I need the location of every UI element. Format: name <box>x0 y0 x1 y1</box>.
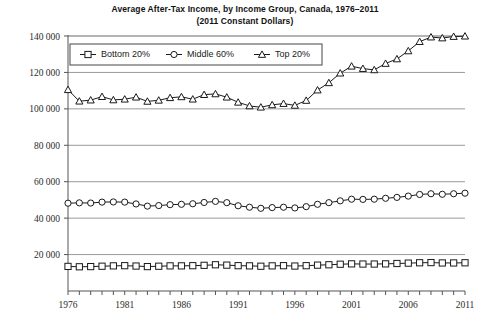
data-point-marker <box>99 199 105 205</box>
data-point-marker <box>427 34 434 40</box>
data-point-marker <box>246 204 252 210</box>
data-point-marker <box>144 263 150 269</box>
line-chart-svg: 20 00040 00060 00080 000100 000120 00014… <box>0 0 490 332</box>
data-point-marker <box>178 93 185 99</box>
data-point-marker <box>246 263 252 269</box>
data-point-marker <box>360 261 366 267</box>
y-axis-ticks-group <box>64 36 68 255</box>
y-axis-labels-group: 20 00040 00060 00080 000100 000120 00014… <box>29 32 60 261</box>
data-point-marker <box>133 201 139 207</box>
data-point-marker <box>405 260 411 266</box>
data-point-marker <box>235 99 242 105</box>
data-point-marker <box>88 200 94 206</box>
data-point-marker <box>212 198 218 204</box>
legend-marker-icon <box>171 51 177 57</box>
data-point-marker <box>122 263 128 269</box>
data-point-marker <box>258 205 264 211</box>
data-point-marker <box>269 204 275 210</box>
data-point-marker <box>190 201 196 207</box>
gridlines-group <box>68 36 465 255</box>
chart-legend: Bottom 20%Middle 60%Top 20% <box>70 44 322 65</box>
data-point-marker <box>280 100 287 106</box>
series-bottom-20 <box>65 259 468 269</box>
data-point-marker <box>178 263 184 269</box>
data-point-marker <box>439 260 445 266</box>
data-point-marker <box>383 261 389 267</box>
data-point-marker <box>383 195 389 201</box>
x-axis-labels-group: 19761981198619911996200120062011 <box>59 300 475 310</box>
data-point-marker <box>303 204 309 210</box>
data-point-marker <box>393 55 400 61</box>
data-point-marker <box>451 191 457 197</box>
x-axis-tick-label: 1976 <box>59 300 78 310</box>
data-point-marker <box>292 263 298 269</box>
data-point-marker <box>76 264 82 270</box>
data-point-marker <box>462 190 468 196</box>
data-point-marker <box>371 196 377 202</box>
data-point-marker <box>201 262 207 268</box>
data-point-marker <box>122 199 128 205</box>
y-axis-tick-label: 40 000 <box>34 214 60 224</box>
data-point-marker <box>110 263 116 269</box>
data-point-marker <box>416 38 423 44</box>
y-axis-tick-label: 60 000 <box>34 177 60 187</box>
legend-items-group: Bottom 20%Middle 60%Top 20% <box>80 49 310 59</box>
legend-marker-icon <box>85 51 91 57</box>
data-point-marker <box>65 200 71 206</box>
data-point-marker <box>326 262 332 268</box>
data-point-marker <box>235 263 241 269</box>
legend-label: Top 20% <box>275 49 310 59</box>
data-point-marker <box>292 205 298 211</box>
data-point-marker <box>190 263 196 269</box>
data-point-marker <box>156 202 162 208</box>
x-axis-tick-label: 1996 <box>285 300 304 310</box>
data-point-marker <box>65 263 71 269</box>
y-axis-tick-label: 140 000 <box>29 32 60 42</box>
data-point-marker <box>132 94 139 100</box>
data-point-marker <box>110 199 116 205</box>
data-point-marker <box>337 261 343 267</box>
legend-label: Bottom 20% <box>101 49 150 59</box>
y-axis-tick-label: 20 000 <box>34 250 60 260</box>
data-point-marker <box>201 199 207 205</box>
data-point-marker <box>280 263 286 269</box>
data-point-marker <box>394 260 400 266</box>
data-point-marker <box>212 90 219 96</box>
data-point-marker <box>212 262 218 268</box>
x-axis-tick-label: 1991 <box>229 300 248 310</box>
data-point-marker <box>156 263 162 269</box>
x-axis-ticks-group <box>68 291 465 295</box>
data-point-marker <box>405 193 411 199</box>
data-point-marker <box>167 202 173 208</box>
data-point-marker <box>99 263 105 269</box>
data-point-marker <box>371 261 377 267</box>
data-point-marker <box>394 194 400 200</box>
data-point-marker <box>280 204 286 210</box>
x-axis-tick-label: 2006 <box>399 300 418 310</box>
data-point-marker <box>337 198 343 204</box>
x-axis-tick-label: 2011 <box>456 300 475 310</box>
data-point-marker <box>428 191 434 197</box>
data-point-marker <box>462 260 468 266</box>
y-axis-tick-label: 80 000 <box>34 141 60 151</box>
data-point-marker <box>428 259 434 265</box>
data-point-marker <box>235 203 241 209</box>
data-point-marker <box>360 196 366 202</box>
data-point-marker <box>417 260 423 266</box>
data-point-marker <box>303 263 309 269</box>
data-series-group <box>64 33 468 270</box>
series-middle-60 <box>65 190 468 211</box>
data-point-marker <box>258 263 264 269</box>
data-point-marker <box>133 263 139 269</box>
data-point-marker <box>348 196 354 202</box>
y-axis-tick-label: 100 000 <box>29 104 60 114</box>
data-point-marker <box>224 200 230 206</box>
data-point-marker <box>314 87 321 93</box>
x-axis-tick-label: 1986 <box>172 300 191 310</box>
data-point-marker <box>382 60 389 66</box>
data-point-marker <box>348 63 355 69</box>
data-point-marker <box>178 201 184 207</box>
data-point-marker <box>144 203 150 209</box>
chart-container: Average After-Tax Income, by Income Grou… <box>0 0 490 332</box>
data-point-marker <box>269 263 275 269</box>
